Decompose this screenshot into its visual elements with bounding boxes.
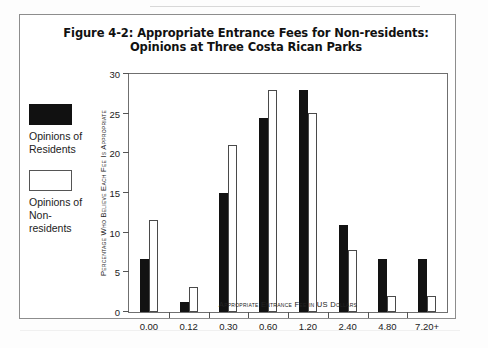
x-axis-category-label: 0.60	[259, 321, 278, 332]
x-axis-tick	[328, 312, 329, 318]
y-axis-tick	[123, 192, 129, 193]
figure-page: Figure 4-2: Appropriate Entrance Fees fo…	[0, 0, 488, 348]
x-axis-category-label: 0.12	[179, 321, 198, 332]
x-axis-tick	[368, 312, 369, 318]
figure-title: Figure 4-2: Appropriate Entrance Fees fo…	[60, 27, 432, 54]
y-axis-tick	[123, 311, 129, 312]
x-axis-tick	[169, 312, 170, 318]
bar-residents	[219, 193, 228, 312]
y-axis-tick-label: 20	[109, 148, 120, 159]
y-axis-tick-label: 5	[115, 267, 120, 278]
legend-item-residents: Opinions of Residents	[29, 104, 91, 156]
y-axis-tick-label: 30	[109, 69, 120, 80]
x-axis-tick	[209, 312, 210, 318]
x-axis-tick	[248, 312, 249, 318]
legend-item-nonresidents: Opinions of Non-residents	[29, 170, 91, 235]
bar-residents	[259, 118, 268, 312]
y-axis-tick-label: 10	[109, 227, 120, 238]
legend-label-residents: Opinions of Residents	[29, 130, 91, 156]
x-axis-category-label: 1.20	[299, 321, 318, 332]
bar-residents	[339, 225, 348, 312]
x-axis-tick	[407, 312, 408, 318]
figure-title-line2: Opinions at Three Costa Rican Parks	[60, 41, 432, 55]
x-axis-category-label: 7.20+	[415, 321, 439, 332]
x-axis-category-label: 0.30	[219, 321, 238, 332]
y-axis-tick	[123, 113, 129, 114]
x-axis-category-label: 0.00	[140, 321, 159, 332]
x-axis-category-label: 2.40	[338, 321, 357, 332]
legend-swatch-residents	[29, 104, 72, 125]
y-axis-tick-label: 25	[109, 108, 120, 119]
chart-legend: Opinions of Residents Opinions of Non-re…	[29, 104, 91, 245]
bar-residents	[299, 90, 308, 312]
y-axis-tick	[123, 232, 129, 233]
scan-artifact-top	[150, 6, 420, 7]
y-axis-tick	[123, 271, 129, 272]
y-axis-tick-label: 15	[109, 188, 120, 199]
x-axis-tick	[288, 312, 289, 318]
y-axis-tick-label: 0	[115, 307, 120, 318]
plot-inner: 0510152025300.000.120.300.601.202.404.80…	[129, 74, 447, 312]
figure-title-line1: Figure 4-2: Appropriate Entrance Fees fo…	[63, 26, 428, 40]
x-axis-title: Appropriate Entrance Fee in US Dollars	[128, 300, 448, 309]
bar-nonresidents	[228, 145, 237, 312]
bar-nonresidents	[268, 90, 277, 312]
bar-nonresidents	[149, 220, 158, 312]
plot-area: 0510152025300.000.120.300.601.202.404.80…	[128, 73, 448, 313]
bar-nonresidents	[308, 113, 317, 312]
x-axis-category-label: 4.80	[378, 321, 397, 332]
legend-label-nonresidents: Opinions of Non-residents	[29, 196, 91, 235]
legend-swatch-nonresidents	[29, 170, 72, 191]
y-axis-tick	[123, 152, 129, 153]
y-axis-tick	[123, 73, 129, 74]
